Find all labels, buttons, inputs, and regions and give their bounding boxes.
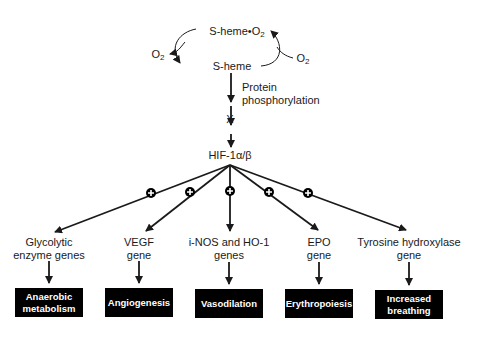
gene-epo: EPOgene xyxy=(307,236,331,262)
outcome-anaerobic-metabolism: Anaerobicmetabolism xyxy=(15,288,83,317)
outcome-increased-breathing: Increasedbreathing xyxy=(375,290,443,319)
outcome-erythropoiesis: Erythropoiesis xyxy=(285,289,353,318)
protein-phosphorylation-label: Proteinphosphorylation xyxy=(242,81,320,107)
gene-glycolytic: Glycolyticenzyme genes xyxy=(13,236,85,262)
gene-tyrosine-hydroxylase: Tyrosine hydroxylasegene xyxy=(357,236,460,262)
hif-label: HIF-1α/β xyxy=(208,149,251,162)
deoxy-heme-label: S-heme xyxy=(213,60,252,73)
gene-inos-ho1: i-NOS and HO-1genes xyxy=(189,236,270,262)
outcome-angiogenesis: Angiogenesis xyxy=(105,288,173,317)
outcome-vasodilation: Vasodilation xyxy=(195,289,263,318)
intermediate-x-label: X xyxy=(226,113,233,126)
gene-vegf: VEGFgene xyxy=(124,236,154,262)
o2-left-label: O2 xyxy=(151,48,164,61)
cycle-arrow-left xyxy=(175,29,196,63)
cycle-arrow-to-o2-left xyxy=(170,42,185,54)
o2-right-label: O2 xyxy=(296,52,309,65)
oxy-heme-label: S-heme•O2 xyxy=(209,25,264,38)
